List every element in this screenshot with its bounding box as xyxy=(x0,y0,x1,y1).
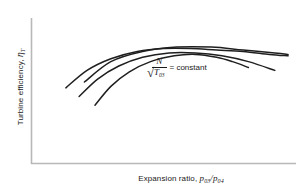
axis-lines xyxy=(31,18,296,164)
pressure-denominator-subscript: 04 xyxy=(218,178,224,184)
x-axis-title: Expansion ratio, p03/p04 xyxy=(106,172,256,187)
figure-container: Turbine efficiency, ηT Expansion ratio, … xyxy=(0,0,302,192)
plot-canvas xyxy=(0,0,302,192)
annotation-equals-text: = constant xyxy=(169,63,207,72)
eta-subscript: T xyxy=(20,49,26,52)
curve-annotation: √ N T03 = constant xyxy=(147,57,207,79)
x-axis-title-prefix: Expansion ratio, xyxy=(138,174,199,183)
fraction-numerator: N xyxy=(154,57,164,66)
speed-parameter-fraction: √ N T03 xyxy=(147,57,167,79)
y-axis-title-prefix: Turbine efficiency, xyxy=(16,57,25,125)
eta-symbol: η xyxy=(15,52,25,57)
temperature-subscript: 03 xyxy=(159,72,165,78)
y-axis-title: Turbine efficiency, ηT xyxy=(14,12,26,162)
fraction-denominator: T03 xyxy=(152,68,167,79)
fraction-stack: N T03 xyxy=(152,57,167,79)
